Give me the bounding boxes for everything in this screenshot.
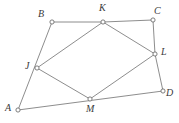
vertex-marker-l	[153, 52, 157, 56]
edge-k-c	[103, 20, 153, 22]
vertex-marker-d	[161, 89, 165, 93]
vertex-label-l: L	[161, 47, 167, 57]
vertex-label-c: C	[154, 6, 161, 16]
edge-l-d	[155, 54, 163, 91]
vertex-label-b: B	[38, 9, 44, 19]
edge-c-l	[153, 20, 155, 54]
vertex-marker-c	[151, 18, 155, 22]
edge-k-l	[103, 22, 155, 54]
vertex-label-j: J	[25, 61, 29, 71]
edge-l-m	[90, 54, 155, 99]
vertex-marker-a	[16, 108, 20, 112]
vertex-label-m: M	[86, 104, 94, 114]
edge-m-j	[37, 68, 90, 99]
vertex-marker-b	[50, 20, 54, 24]
edge-a-b	[18, 22, 52, 110]
vertex-marker-k	[101, 20, 105, 24]
edge-j-k	[37, 22, 103, 68]
vertex-label-a: A	[5, 103, 11, 113]
geometry-figure: ABCDJKLM	[0, 0, 179, 123]
vertex-label-d: D	[166, 88, 173, 98]
vertex-label-k: K	[99, 3, 106, 13]
vertex-markers-group	[16, 18, 165, 112]
vertex-marker-j	[35, 66, 39, 70]
vertex-marker-m	[88, 97, 92, 101]
